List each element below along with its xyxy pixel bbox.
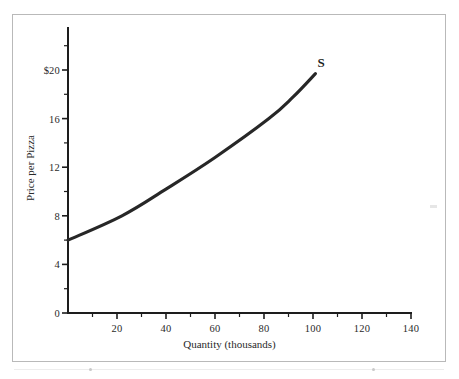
supply-curve — [68, 74, 315, 240]
y-axis-title: Price per Pizza — [24, 108, 36, 228]
x-tick-label: 140 — [403, 323, 419, 334]
x-axis-title: Quantity (thousands) — [0, 338, 459, 350]
y-tick-label: $20 — [24, 65, 60, 76]
x-tick-label: 20 — [112, 323, 123, 334]
x-tick-label: 100 — [305, 323, 321, 334]
x-tick-label: 80 — [259, 323, 270, 334]
x-tick-label: 40 — [161, 323, 172, 334]
series-group — [68, 74, 315, 240]
y-tick-label: 4 — [24, 259, 60, 270]
chart-figure: 0481216$20 20406080100120140 Quantity (t… — [0, 0, 459, 379]
plot-area — [0, 0, 459, 379]
y-tick-label: 0 — [24, 308, 60, 319]
x-tick-label: 120 — [354, 323, 370, 334]
axes-group — [68, 28, 411, 313]
supply-curve-label: S — [317, 55, 324, 71]
x-tick-label: 60 — [210, 323, 221, 334]
